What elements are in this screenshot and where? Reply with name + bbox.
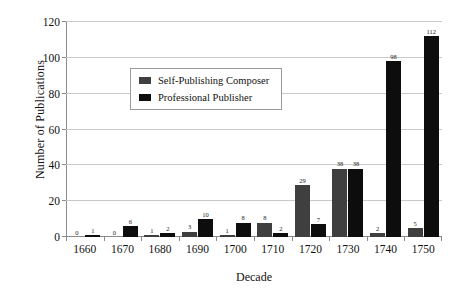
x-tick-label: 1720: [299, 243, 322, 255]
bar-group: 51121750: [404, 22, 442, 237]
x-axis-title: Decade: [66, 270, 442, 285]
bar-pair: 06: [104, 22, 142, 237]
x-tick-mark: [441, 237, 442, 241]
bar-self-publishing[interactable]: [144, 235, 159, 237]
bar-professional[interactable]: [160, 233, 175, 237]
x-tick-mark: [179, 237, 180, 241]
bar-column: 1: [144, 22, 159, 237]
y-tick-label: 40: [49, 159, 61, 171]
y-tick-label: 20: [49, 195, 61, 207]
bar-column: 10: [198, 22, 213, 237]
bar-value-label: 38: [353, 161, 360, 168]
x-tick-mark: [254, 237, 255, 241]
y-tick-label: 0: [54, 231, 60, 243]
bar-column: 29: [295, 22, 310, 237]
y-tick-label: 100: [43, 52, 60, 64]
bar-value-label: 2: [376, 226, 379, 233]
legend-swatch-icon: [139, 94, 151, 101]
bar-column: 5: [408, 22, 423, 237]
x-tick-label: 1750: [412, 243, 435, 255]
bar-professional[interactable]: [123, 226, 138, 237]
bar-pair: 3838: [329, 22, 367, 237]
bar-column: 8: [236, 22, 251, 237]
bar-column: 2: [273, 22, 288, 237]
x-tick-mark: [404, 237, 405, 241]
bar-column: 112: [424, 22, 439, 237]
bar-value-label: 2: [166, 226, 169, 233]
legend: Self-Publishing ComposerProfessional Pub…: [130, 68, 282, 110]
bar-pair: 82: [254, 22, 292, 237]
x-tick-label: 1700: [224, 243, 247, 255]
bar-professional[interactable]: [198, 219, 213, 237]
bar-column: 2: [370, 22, 385, 237]
bar-pair: 297: [292, 22, 330, 237]
bar-self-publishing[interactable]: [182, 232, 197, 237]
bar-pair: 01: [66, 22, 104, 237]
bar-group: 3101690: [179, 22, 217, 237]
bar-professional[interactable]: [85, 235, 100, 237]
bar-value-label: 1: [150, 228, 153, 235]
bar-group: 38381730: [329, 22, 367, 237]
bar-self-publishing[interactable]: [370, 233, 385, 237]
bar-professional[interactable]: [236, 223, 251, 237]
bar-column: 1: [220, 22, 235, 237]
legend-item[interactable]: Professional Publisher: [139, 92, 269, 103]
bar-professional[interactable]: [311, 224, 326, 237]
bar-pair: 5112: [404, 22, 442, 237]
bar-group: 011660: [66, 22, 104, 237]
y-tick-label: 80: [49, 88, 61, 100]
legend-label: Professional Publisher: [158, 92, 252, 103]
bar-value-label: 0: [75, 230, 78, 237]
bar-value-label: 2: [279, 226, 282, 233]
x-tick-label: 1710: [261, 243, 284, 255]
bar-group: 2981740: [367, 22, 405, 237]
legend-item[interactable]: Self-Publishing Composer: [139, 75, 269, 86]
bar-value-label: 3: [188, 224, 191, 231]
bar-value-label: 7: [317, 217, 320, 224]
bar-self-publishing[interactable]: [220, 235, 235, 237]
x-tick-mark: [329, 237, 330, 241]
bar-professional[interactable]: [348, 169, 363, 237]
x-tick-mark: [367, 237, 368, 241]
bar-self-publishing[interactable]: [332, 169, 347, 237]
x-tick-label: 1740: [374, 243, 397, 255]
bar-column: 2: [160, 22, 175, 237]
x-tick-mark: [292, 237, 293, 241]
x-tick-mark: [216, 237, 217, 241]
bar-chart: Number of Publications 020406080100120 0…: [0, 0, 457, 293]
bar-value-label: 8: [242, 215, 245, 222]
legend-label: Self-Publishing Composer: [158, 75, 269, 86]
bar-value-label: 1: [226, 228, 229, 235]
x-tick-label: 1660: [73, 243, 96, 255]
bar-self-publishing[interactable]: [408, 228, 423, 237]
bar-group: 821710: [254, 22, 292, 237]
y-tick-label: 60: [49, 124, 61, 136]
x-tick-label: 1680: [148, 243, 171, 255]
bar-column: 3: [182, 22, 197, 237]
bar-group: 2971720: [292, 22, 330, 237]
bar-column: 0: [69, 22, 84, 237]
bar-self-publishing[interactable]: [257, 223, 272, 237]
bar-professional[interactable]: [386, 61, 401, 237]
bar-column: 38: [332, 22, 347, 237]
bar-self-publishing[interactable]: [295, 185, 310, 237]
bar-pair: 12: [141, 22, 179, 237]
bar-value-label: 1: [91, 228, 94, 235]
x-tick-label: 1730: [336, 243, 359, 255]
bar-professional[interactable]: [273, 233, 288, 237]
bar-column: 98: [386, 22, 401, 237]
bar-column: 6: [123, 22, 138, 237]
bar-value-label: 10: [202, 212, 209, 219]
bar-value-label: 98: [390, 54, 397, 61]
bar-column: 8: [257, 22, 272, 237]
y-tick-label: 120: [43, 16, 60, 28]
bar-value-label: 29: [299, 178, 306, 185]
x-tick-label: 1690: [186, 243, 209, 255]
x-tick-mark: [66, 237, 67, 241]
bar-value-label: 8: [263, 215, 266, 222]
bar-value-label: 6: [129, 219, 132, 226]
bar-column: 0: [107, 22, 122, 237]
bar-professional[interactable]: [424, 36, 439, 237]
legend-swatch-icon: [139, 77, 151, 84]
bar-pair: 298: [367, 22, 405, 237]
